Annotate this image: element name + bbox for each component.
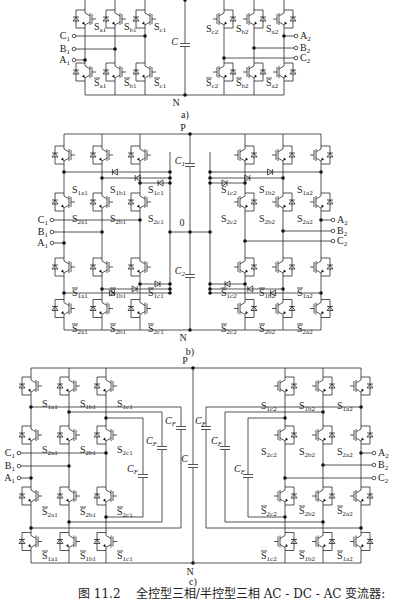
switch-label: S1a1: [72, 287, 88, 300]
node-label-P: P: [182, 355, 188, 366]
igbt-switch-icon: [234, 295, 257, 322]
junction-node: [113, 47, 117, 51]
junction-node: [67, 464, 71, 468]
capacitor-label: C1: [175, 155, 185, 168]
switch-label: Sc2: [206, 23, 219, 36]
terminal-icon: [72, 34, 76, 38]
switch-label: S1a2: [337, 400, 353, 413]
junction-node: [104, 451, 108, 455]
switch-label: S2c2: [221, 323, 237, 336]
junction-node: [183, 0, 187, 2]
switch-label: S2a1: [72, 323, 88, 336]
igbt-switch-icon: [103, 8, 126, 30]
junction-node: [208, 181, 212, 185]
terminal-icon: [50, 241, 54, 245]
igbt-switch-icon: [274, 482, 297, 510]
igbt-switch-icon: [310, 295, 333, 322]
igbt-switch-icon: [19, 372, 42, 400]
junction-node: [183, 93, 187, 97]
switch-label: Sb1: [124, 77, 137, 90]
junction-node: [168, 291, 172, 295]
switch-label: S2b1: [80, 444, 97, 457]
igbt-switch-icon: [52, 140, 75, 170]
switch-label: S2b1: [110, 323, 127, 336]
terminal-icon: [372, 451, 376, 455]
capacitor-label: C2: [175, 265, 186, 278]
igbt-switch-icon: [94, 528, 117, 555]
igbt-switch-icon: [213, 62, 236, 82]
switch-label: S2a1: [42, 506, 58, 519]
switch-label: S1c2: [261, 400, 277, 413]
switch-label: S1b2: [299, 550, 316, 563]
junction-node: [168, 176, 172, 180]
igbt-switch-icon: [19, 528, 42, 555]
capacitor-label: CF: [211, 435, 223, 448]
switch-label: Sa1: [94, 21, 107, 34]
switch-label: S1a1: [42, 550, 58, 563]
switch-label: S2a1: [42, 444, 58, 457]
terminal-icon: [372, 463, 376, 467]
switch-label: S1c2: [261, 550, 277, 563]
igbt-switch-icon: [243, 62, 266, 82]
switch-label: S2b2: [299, 446, 316, 459]
igbt-switch-icon: [103, 62, 126, 82]
panel-b-npc-converter: PC1C20Nb)S1a1S2a1S1a1S2a1S1b1S2b1S1b1S2b…: [37, 122, 348, 358]
switch-label: S2a2: [297, 213, 313, 226]
junction-node: [83, 58, 87, 62]
switch-label: S1b1: [110, 184, 127, 197]
igbt-switch-icon: [310, 140, 333, 170]
igbt-switch-icon: [312, 420, 335, 450]
circuit-diagram: Sa1Sa1Sb1Sb1Sc1Sc1C1B1A1CNa)Sc2Sc2Sb2Sb2…: [0, 0, 395, 601]
switch-label: S1c1: [117, 550, 133, 563]
terminal-icon: [17, 464, 21, 468]
capacitor-icon: [180, 43, 190, 47]
capacitor-label: CF: [127, 463, 139, 476]
junction-node: [321, 520, 325, 524]
terminal-label: C1: [60, 30, 71, 43]
switch-label: S2b2: [259, 213, 276, 226]
switch-label: S1a1: [42, 398, 58, 411]
switch-label: S2a1: [72, 213, 88, 226]
junction-node: [208, 176, 212, 180]
switch-label: S2a2: [297, 323, 313, 336]
terminal-label: A1: [4, 472, 15, 485]
igbt-switch-icon: [213, 8, 236, 30]
junction-node: [168, 282, 172, 286]
capacitor-label: CF: [234, 463, 246, 476]
terminal-icon: [331, 229, 335, 233]
capacitor-icon: [157, 446, 167, 450]
igbt-switch-icon: [274, 372, 297, 400]
switch-label: S1b2: [259, 184, 276, 197]
junction-node: [168, 287, 172, 291]
junction-node: [208, 282, 212, 286]
igbt-switch-icon: [57, 528, 80, 555]
terminal-icon: [331, 218, 335, 222]
junction-node: [208, 287, 212, 291]
igbt-switch-icon: [310, 186, 333, 218]
switch-label: Sb2: [236, 23, 249, 36]
junction-node: [138, 218, 142, 222]
igbt-switch-icon: [350, 372, 373, 400]
igbt-switch-icon: [350, 420, 373, 450]
figure-number: 图 11.2: [78, 587, 121, 601]
igbt-switch-icon: [128, 252, 151, 282]
capacitor-icon: [185, 274, 195, 278]
junction-node: [208, 170, 212, 174]
switch-label: S1b1: [80, 550, 97, 563]
igbt-switch-icon: [19, 482, 42, 510]
switch-label: S2a2: [337, 446, 353, 459]
igbt-switch-icon: [350, 528, 373, 555]
igbt-switch-icon: [243, 8, 266, 30]
igbt-switch-icon: [90, 295, 113, 322]
junction-node: [168, 170, 172, 174]
switch-label: Sa1: [94, 77, 107, 90]
junction-node: [143, 34, 147, 38]
igbt-switch-icon: [94, 372, 117, 400]
igbt-switch-icon: [57, 420, 80, 450]
switch-label: S1a2: [297, 287, 313, 300]
switch-label: Sc1: [154, 77, 167, 90]
junction-node: [67, 520, 71, 524]
switch-label: S1c2: [221, 184, 237, 197]
capacitor-label: CF: [146, 435, 158, 448]
igbt-switch-icon: [19, 420, 42, 450]
